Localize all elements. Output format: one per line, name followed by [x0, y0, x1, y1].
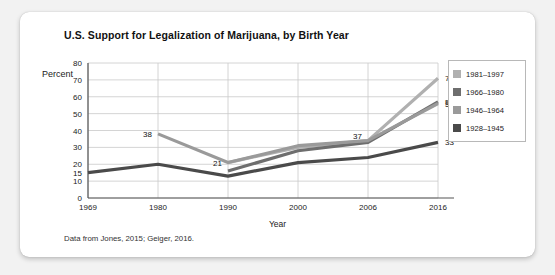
data-point-label: 37 — [353, 132, 362, 141]
data-point-label: 38 — [143, 130, 152, 139]
y-axis-tick-label: 50 — [73, 110, 82, 119]
y-axis-tick-label: 80 — [73, 59, 82, 68]
y-axis-tick-label: 10 — [73, 177, 82, 186]
x-axis-label: Year — [20, 219, 535, 229]
y-axis-tick-label: 0 — [78, 194, 83, 203]
legend-swatch-icon — [453, 88, 461, 96]
legend-swatch-icon — [453, 106, 461, 114]
x-axis-tick-label: 1969 — [79, 203, 97, 212]
y-axis-tick-label: 70 — [73, 76, 82, 85]
chart-legend: 1981–19971966–19801946–19641928–1945 — [448, 60, 526, 142]
legend-swatch-icon — [453, 70, 461, 78]
data-point-label: 21 — [213, 159, 222, 168]
y-axis-tick-label: 30 — [73, 143, 82, 152]
y-axis-tick-label: 60 — [73, 93, 82, 102]
x-axis-tick-label: 1980 — [149, 203, 167, 212]
x-axis-tick-label: 2000 — [289, 203, 307, 212]
legend-item-label: 1981–1997 — [466, 70, 504, 79]
legend-item-label: 1928–1945 — [466, 124, 504, 133]
screenshot-root: U.S. Support for Legalization of Marijua… — [0, 0, 555, 275]
legend-item: 1981–1997 — [453, 65, 522, 83]
y-axis-tick-label: 40 — [73, 127, 82, 136]
legend-swatch-icon — [453, 124, 461, 132]
legend-item-label: 1946–1964 — [466, 106, 504, 115]
legend-item-label: 1966–1980 — [466, 88, 504, 97]
legend-item: 1966–1980 — [453, 83, 522, 101]
chart-card: U.S. Support for Legalization of Marijua… — [20, 12, 535, 257]
x-axis-tick-label: 2016 — [429, 203, 447, 212]
x-axis-tick-label: 2006 — [359, 203, 377, 212]
source-footnote: Data from Jones, 2015; Geiger, 2016. — [64, 234, 194, 243]
x-axis-tick-label: 1990 — [219, 203, 237, 212]
legend-item: 1946–1964 — [453, 101, 522, 119]
legend-item: 1928–1945 — [453, 119, 522, 137]
data-point-label: 15 — [73, 169, 82, 178]
